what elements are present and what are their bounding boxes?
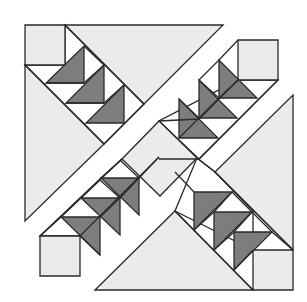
corner-square-bottom-right bbox=[253, 250, 293, 290]
corner-square-top-right bbox=[238, 40, 278, 80]
corner-square-top-left bbox=[25, 25, 65, 65]
corner-square-bottom-left bbox=[40, 236, 80, 276]
quilt-block-diagram bbox=[0, 0, 307, 302]
quilt-block-svg bbox=[0, 0, 307, 302]
